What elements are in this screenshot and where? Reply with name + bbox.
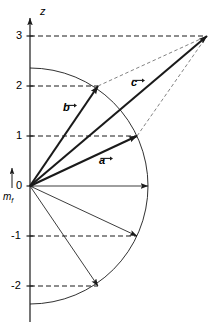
axis-tick-label: 2	[16, 80, 22, 91]
vector-label-b: b	[63, 103, 70, 113]
axis-tick-label: -1	[11, 230, 21, 241]
axis-tick-label: 3	[16, 30, 22, 41]
dashed-level-lines	[30, 36, 205, 286]
vector-overbar-arrow-icon	[132, 78, 145, 83]
vector-diagram-figure: z 3210-1-2 mf bca	[0, 0, 217, 330]
vector-label-a: a	[99, 156, 105, 166]
vector-overbar-arrow-icon	[64, 103, 77, 108]
axis-label-z: z	[40, 6, 46, 17]
axis-tick-label: 0	[16, 180, 22, 191]
vector-overbar-arrow-icon	[100, 156, 113, 161]
axis-tick-label: -2	[11, 280, 21, 291]
mf-label-subscript: f	[11, 197, 13, 204]
vector-label-c: c	[131, 78, 137, 88]
thick-vectors	[30, 36, 207, 186]
axis-tick-label: 1	[16, 130, 22, 141]
diagram-canvas	[0, 0, 217, 330]
mf-label: mf	[3, 192, 13, 204]
construction-line	[98, 36, 207, 86]
vector-arrow-rm1	[30, 186, 137, 236]
vector-arrow-c	[30, 36, 207, 186]
